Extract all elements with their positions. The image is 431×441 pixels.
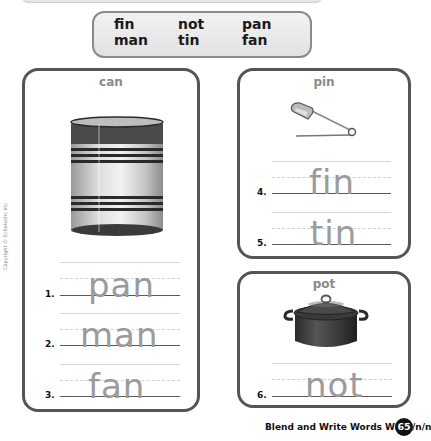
trace-word: not [305, 368, 364, 402]
tin-can-image [68, 114, 168, 238]
card-title: can [25, 75, 197, 89]
word-bank-word: fin [114, 17, 134, 31]
item-number: 6. [257, 390, 267, 400]
word-bank-word: pan [242, 17, 271, 31]
word-bank-word: tin [178, 33, 199, 47]
writing-line-top [272, 363, 392, 364]
trace-word: tin [310, 216, 357, 250]
top-decorative-bar [22, 0, 322, 3]
cooking-pot-image [283, 293, 369, 351]
item-number: 4. [257, 187, 267, 197]
word-bank-word: fan [242, 33, 268, 47]
item-number: 2. [45, 339, 55, 349]
word-bank-word: man [114, 33, 148, 47]
copyright-notice: Copyright © Scholastic Inc. [2, 202, 8, 271]
trace-word: fan [88, 369, 145, 403]
item-number: 5. [257, 238, 267, 248]
card-title: pin [240, 75, 408, 89]
word-bank: fin not pan man tin fan [92, 11, 312, 58]
trace-word: man [80, 318, 159, 352]
page-number: 65 [395, 418, 413, 436]
trace-word: pan [88, 268, 155, 302]
trace-word: fin [309, 165, 355, 199]
writing-line-top [60, 262, 180, 263]
card-title: pot [240, 277, 408, 291]
writing-line-top [60, 364, 180, 365]
safety-pin-image [288, 100, 360, 140]
item-number: 1. [45, 289, 55, 299]
word-bank-word: not [178, 17, 204, 31]
writing-line-top [60, 313, 180, 314]
item-number: 3. [45, 390, 55, 400]
